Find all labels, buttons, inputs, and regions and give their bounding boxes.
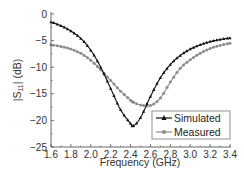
circle-marker-icon xyxy=(169,81,172,84)
legend-measured-circle-icon xyxy=(162,130,166,134)
circle-marker-icon xyxy=(222,43,225,46)
circle-marker-icon xyxy=(162,92,165,95)
circle-marker-icon xyxy=(69,48,72,51)
series-line-simulated xyxy=(51,22,230,126)
x-tick-label: 3.2 xyxy=(203,149,217,160)
circle-marker-icon xyxy=(135,102,138,105)
circle-marker-icon xyxy=(56,44,59,47)
circle-marker-icon xyxy=(192,56,195,59)
circle-marker-icon xyxy=(76,50,79,53)
circle-marker-icon xyxy=(159,97,162,100)
circle-marker-icon xyxy=(182,63,185,66)
x-tick-label: 1.8 xyxy=(64,149,78,160)
y-tick-label: 0 xyxy=(41,9,47,20)
x-tick-label: 3.0 xyxy=(183,149,197,160)
x-tick-label: 3.4 xyxy=(223,149,237,160)
circle-marker-icon xyxy=(149,104,152,107)
circle-marker-icon xyxy=(189,58,192,61)
circle-marker-icon xyxy=(205,48,208,51)
circle-marker-icon xyxy=(156,100,159,103)
circle-marker-icon xyxy=(73,49,76,52)
circle-marker-icon xyxy=(83,54,86,57)
circle-marker-icon xyxy=(66,47,69,50)
circle-marker-icon xyxy=(116,86,119,89)
circle-marker-icon xyxy=(215,45,218,48)
circle-marker-icon xyxy=(86,56,89,59)
circle-marker-icon xyxy=(202,50,205,53)
circle-marker-icon xyxy=(63,46,66,49)
circle-marker-icon xyxy=(172,76,175,79)
circle-marker-icon xyxy=(166,86,169,89)
circle-marker-icon xyxy=(79,52,82,55)
circle-marker-icon xyxy=(109,79,112,82)
legend-measured-label: Measured xyxy=(174,126,221,138)
circle-marker-icon xyxy=(132,101,135,104)
circle-marker-icon xyxy=(185,61,188,64)
y-tick-label: −20 xyxy=(30,115,47,126)
legend-simulated-label: Simulated xyxy=(174,112,221,124)
circle-marker-icon xyxy=(52,44,55,47)
circle-marker-icon xyxy=(229,42,232,45)
y-tick-label: −10 xyxy=(30,62,47,73)
circle-marker-icon xyxy=(212,46,215,49)
circle-marker-icon xyxy=(152,102,155,105)
circle-marker-icon xyxy=(179,67,182,70)
circle-marker-icon xyxy=(142,104,145,107)
circle-marker-icon xyxy=(119,90,122,93)
circle-marker-icon xyxy=(93,62,96,65)
circle-marker-icon xyxy=(139,103,142,106)
circle-marker-icon xyxy=(123,93,126,96)
circle-marker-icon xyxy=(199,52,202,55)
circle-marker-icon xyxy=(175,71,178,74)
circle-marker-icon xyxy=(226,42,229,45)
circle-marker-icon xyxy=(59,45,62,48)
x-axis-title: Frequency (GHz) xyxy=(100,156,181,168)
circle-marker-icon xyxy=(126,96,129,99)
circle-marker-icon xyxy=(219,44,222,47)
y-tick-label: −25 xyxy=(30,142,47,153)
circle-marker-icon xyxy=(112,83,115,86)
y-tick-label: −5 xyxy=(36,35,48,46)
legend: Simulated Measured xyxy=(152,111,230,139)
s11-chart: 1.61.82.02.22.42.62.83.03.23.40−5−10−15−… xyxy=(0,0,244,193)
y-tick-label: −15 xyxy=(30,88,47,99)
circle-marker-icon xyxy=(209,47,212,50)
x-tick-label: 2.0 xyxy=(84,149,98,160)
circle-marker-icon xyxy=(89,59,92,62)
circle-marker-icon xyxy=(195,54,198,57)
y-axis-title: |S11| (dB) xyxy=(11,59,24,102)
circle-marker-icon xyxy=(96,65,99,68)
